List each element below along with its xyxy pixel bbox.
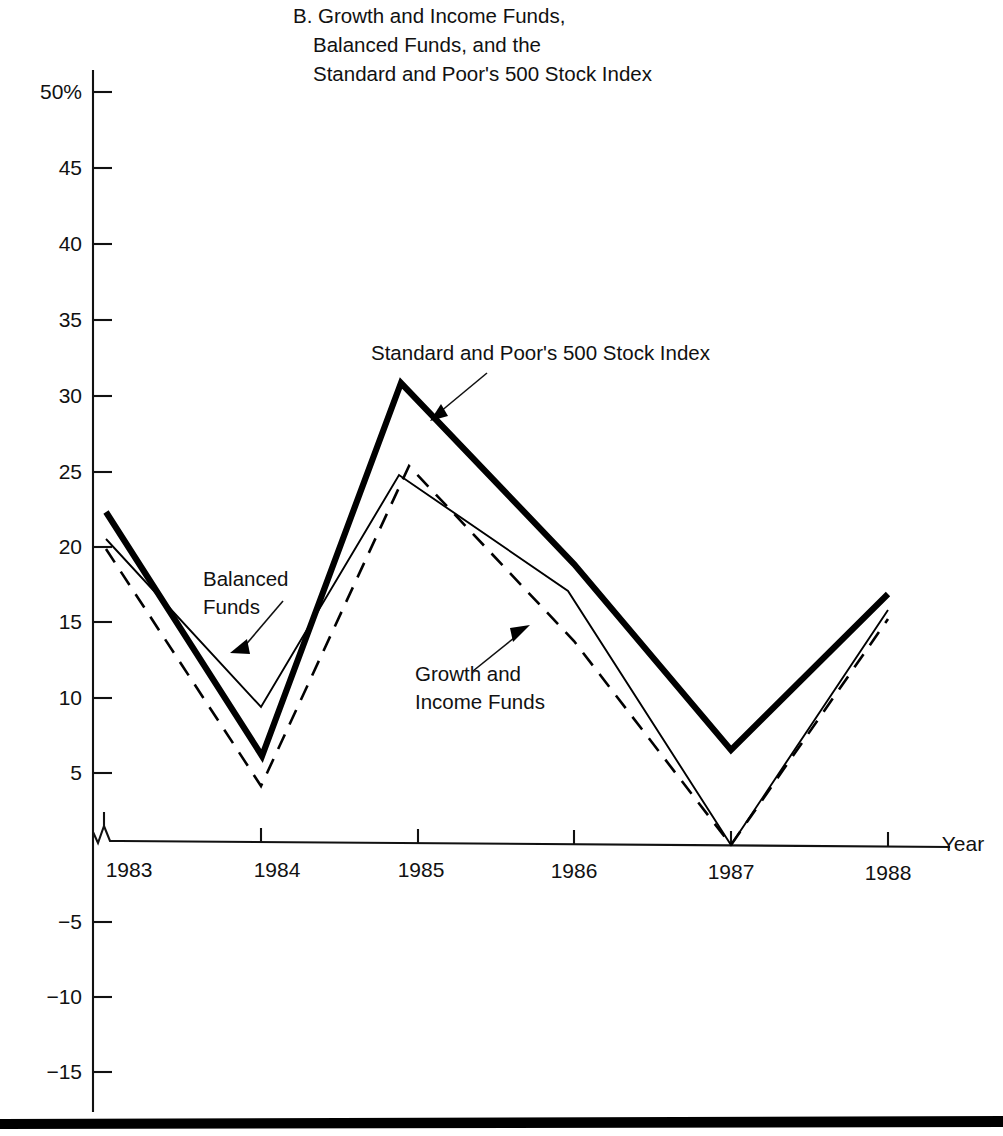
annotation-balanced-funds-label-1: Balanced	[203, 567, 288, 590]
y-axis: 50% 45 40 35 30 25 20 15 10 5 −5 −10 −15	[40, 70, 112, 1112]
annotation-growth-income-label-1: Growth and	[415, 662, 521, 685]
y-tick-label-15: 15	[59, 610, 82, 633]
annotation-sp500-label: Standard and Poor's 500 Stock Index	[371, 341, 711, 364]
y-tick-label-50: 50%	[40, 80, 82, 103]
y-tick-label-35: 35	[59, 308, 82, 331]
chart-title-line-2: Balanced Funds, and the	[313, 33, 541, 56]
figure-panel-b: B. Growth and Income Funds, Balanced Fun…	[0, 0, 1003, 1136]
y-tick-label-neg10: −10	[46, 985, 82, 1008]
x-tick-label-1984: 1984	[254, 858, 301, 881]
x-tick-label-1983: 1983	[106, 858, 153, 881]
x-axis-line-with-break	[93, 826, 950, 847]
y-tick-label-20: 20	[59, 535, 82, 558]
x-axis: 1983 1984 1985 1986 1987 1988 Year	[93, 812, 984, 884]
annotation-growth-income-funds: Growth and Income Funds	[415, 625, 545, 713]
y-tick-label-30: 30	[59, 384, 82, 407]
y-tick-label-40: 40	[59, 232, 82, 255]
annotation-sp500-leader	[440, 373, 487, 412]
chart-title-line-1: B. Growth and Income Funds,	[293, 4, 565, 27]
annotation-growth-income-label-2: Income Funds	[415, 690, 545, 713]
annotation-balanced-funds-label-2: Funds	[203, 595, 260, 618]
y-tick-label-25: 25	[59, 460, 82, 483]
x-tick-label-1988: 1988	[865, 861, 912, 884]
x-tick-label-1985: 1985	[398, 858, 445, 881]
x-axis-tick-labels: 1983 1984 1985 1986 1987 1988	[106, 858, 912, 884]
annotation-balanced-funds: Balanced Funds	[203, 567, 288, 654]
arrowhead-icon	[230, 639, 250, 654]
y-tick-label-10: 10	[59, 686, 82, 709]
y-tick-label-5: 5	[70, 761, 82, 784]
series-line-growth-and-income-funds	[106, 466, 888, 845]
x-tick-label-1987: 1987	[708, 860, 755, 883]
y-tick-label-neg5: −5	[58, 910, 82, 933]
y-tick-label-45: 45	[59, 156, 82, 179]
bottom-rule-divider	[0, 1116, 1003, 1129]
y-axis-ticks	[93, 92, 112, 1072]
y-tick-label-neg15: −15	[46, 1060, 82, 1083]
x-axis-label-year: Year	[942, 832, 984, 855]
arrowhead-icon	[510, 625, 530, 642]
line-chart: B. Growth and Income Funds, Balanced Fun…	[0, 0, 1003, 1136]
chart-title-line-3: Standard and Poor's 500 Stock Index	[313, 62, 653, 85]
x-tick-label-1986: 1986	[551, 859, 598, 882]
y-axis-tick-labels: 50% 45 40 35 30 25 20 15 10 5 −5 −10 −15	[40, 80, 82, 1083]
